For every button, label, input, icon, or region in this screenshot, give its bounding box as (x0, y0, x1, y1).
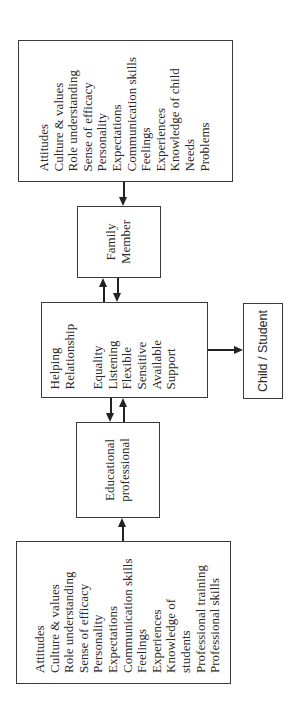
professional-attr-item: Communication skills (121, 541, 136, 673)
child-student-label: Child / Student (256, 303, 271, 399)
professional-attr-item: Sense of efficacy (77, 541, 92, 673)
arrowhead-right-icon (234, 346, 243, 354)
family-attr-item: Needs (182, 40, 197, 171)
child-student-box: Child / Student (243, 303, 283, 399)
arrowhead-up-icon (119, 398, 127, 407)
family-attr-item: Knowledge of child (167, 40, 182, 171)
helping-quality: Sensitive (134, 302, 149, 389)
family-attr-item: Role understanding (65, 40, 80, 171)
arrow-educational-to-helping (123, 406, 125, 422)
educational-professional-box: Educational professional (76, 422, 160, 518)
arrowhead-down-icon (119, 197, 127, 206)
spacer (76, 302, 90, 389)
family-attr-item: Feelings (138, 40, 153, 171)
family-attr-item: Experiences (153, 40, 168, 171)
family-member-label: Family (104, 206, 119, 278)
arrow-attributes-to-educational (122, 526, 124, 541)
professional-attr-item: Personality (91, 541, 106, 673)
arrowhead-up-icon (99, 278, 107, 287)
helping-quality: Flexible (119, 302, 134, 389)
helping-relationship-text: Helping Relationship Equality Listening … (41, 302, 208, 398)
helping-title: Helping (47, 302, 62, 389)
helping-relationship-box: Helping Relationship Equality Listening … (41, 302, 208, 398)
professional-attr-item: Experiences (150, 541, 165, 673)
professional-attr-item: Attitudes (33, 541, 48, 673)
arrow-family-to-helping (117, 278, 119, 294)
professional-attr-item: Role understanding (62, 541, 77, 673)
arrow-attributes-to-family (123, 182, 125, 198)
family-member-text: Family Member (77, 206, 161, 278)
professional-attributes-text: Attitudes Culture & values Role understa… (16, 541, 231, 684)
family-attr-item: Culture & values (51, 40, 66, 171)
arrow-helping-to-educational (110, 398, 112, 414)
arrowhead-down-icon (113, 293, 121, 302)
family-member-label: Member (119, 206, 134, 278)
professional-attr-item: Knowledge of (164, 541, 179, 673)
family-attributes-text: Attitudes Culture & values Role understa… (18, 40, 233, 182)
family-attributes-box: Attitudes Culture & values Role understa… (18, 40, 233, 182)
educational-professional-text: Educational professional (76, 422, 160, 518)
helping-quality: Available (149, 302, 164, 389)
professional-attr-item: Culture & values (48, 541, 63, 673)
family-attr-item: Problems (197, 40, 212, 171)
arrowhead-up-icon (118, 518, 126, 527)
family-attr-item: Communication skills (124, 40, 139, 171)
family-attr-item: Sense of efficacy (80, 40, 95, 171)
helping-quality: Equality (90, 302, 105, 389)
family-attr-item: Attitudes (36, 40, 51, 171)
family-attr-item: Expectations (109, 40, 124, 171)
family-attr-item: Personality (94, 40, 109, 171)
professional-attr-item: students (179, 541, 194, 673)
professional-attr-item: Professional skills (208, 541, 223, 673)
helping-quality: Support (163, 302, 178, 389)
arrow-helping-to-child (208, 349, 235, 351)
arrow-helping-to-family (103, 286, 105, 302)
educational-professional-label: professional (118, 422, 133, 518)
child-student-text: Child / Student (243, 303, 283, 399)
professional-attr-item: Expectations (106, 541, 121, 673)
family-member-box: Family Member (77, 206, 161, 278)
arrowhead-down-icon (106, 413, 114, 422)
professional-attr-item: Feelings (135, 541, 150, 673)
professional-attr-item: Professional training (194, 541, 209, 673)
professional-attributes-box: Attitudes Culture & values Role understa… (16, 541, 231, 684)
educational-professional-label: Educational (103, 422, 118, 518)
helping-title: Relationship (62, 302, 77, 389)
helping-quality: Listening (105, 302, 120, 389)
